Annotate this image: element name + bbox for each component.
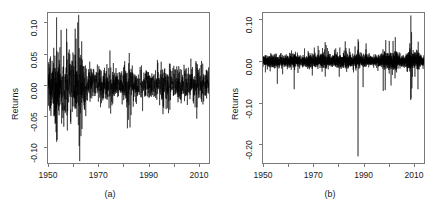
plot-area-b: [262, 12, 425, 164]
plot-area-a: [47, 12, 210, 164]
x-tick-label: 1950: [28, 170, 68, 180]
x-tick-mark: [48, 164, 49, 167]
x-tick-label: 1950: [243, 170, 283, 180]
y-tick-label: 0.10: [3, 17, 43, 27]
x-minor-tick-mark: [73, 164, 74, 167]
panel-a: Returns -0.10-0.050.000.050.10 195019701…: [0, 0, 220, 208]
y-tick-label-text: -0.10: [243, 99, 253, 118]
x-tick-label: 1990: [344, 170, 384, 180]
x-tick-label: 2010: [394, 170, 434, 180]
panel-b: Returns -0.20-0.100.000.10 1950197019902…: [220, 0, 440, 208]
y-tick-label-text: 0.00: [245, 59, 255, 76]
x-tick-mark: [98, 164, 99, 167]
x-tick-mark: [149, 164, 150, 167]
x-tick-label: 2010: [179, 170, 219, 180]
x-tick-label: 1970: [293, 170, 333, 180]
x-tick-mark: [199, 164, 200, 167]
x-minor-tick-mark: [338, 164, 339, 167]
x-tick-label: 1990: [129, 170, 169, 180]
y-tick-label: 0.10: [218, 14, 258, 24]
x-tick-mark: [414, 164, 415, 167]
y-tick-label-text: 0.10: [245, 17, 255, 34]
y-tick-label-text: 0.10: [30, 20, 40, 37]
y-tick-label-text: -0.10: [28, 144, 38, 163]
panel-caption-a: (a): [0, 189, 220, 200]
y-tick-label: -0.10: [3, 142, 43, 152]
y-tick-label-text: -0.20: [243, 141, 253, 160]
x-tick-mark: [364, 164, 365, 167]
y-tick-label: 0.00: [3, 80, 43, 90]
y-tick-label: 0.00: [218, 56, 258, 66]
y-tick-label: -0.10: [218, 98, 258, 108]
x-minor-tick-mark: [174, 164, 175, 167]
y-tick-label-text: -0.05: [28, 112, 38, 131]
returns-series-b: [263, 13, 424, 163]
panel-caption-b: (b): [220, 189, 440, 200]
x-minor-tick-mark: [123, 164, 124, 167]
y-tick-label-text: 0.00: [30, 83, 40, 100]
y-tick-label: -0.05: [3, 111, 43, 121]
x-tick-mark: [313, 164, 314, 167]
returns-series-a: [48, 13, 209, 163]
y-tick-label-text: 0.05: [30, 51, 40, 68]
x-tick-label: 1970: [78, 170, 118, 180]
x-tick-mark: [263, 164, 264, 167]
y-tick-label: -0.20: [218, 139, 258, 149]
x-minor-tick-mark: [389, 164, 390, 167]
x-minor-tick-mark: [288, 164, 289, 167]
returns-figure: Returns -0.10-0.050.000.050.10 195019701…: [0, 0, 440, 208]
y-tick-label: 0.05: [3, 49, 43, 59]
